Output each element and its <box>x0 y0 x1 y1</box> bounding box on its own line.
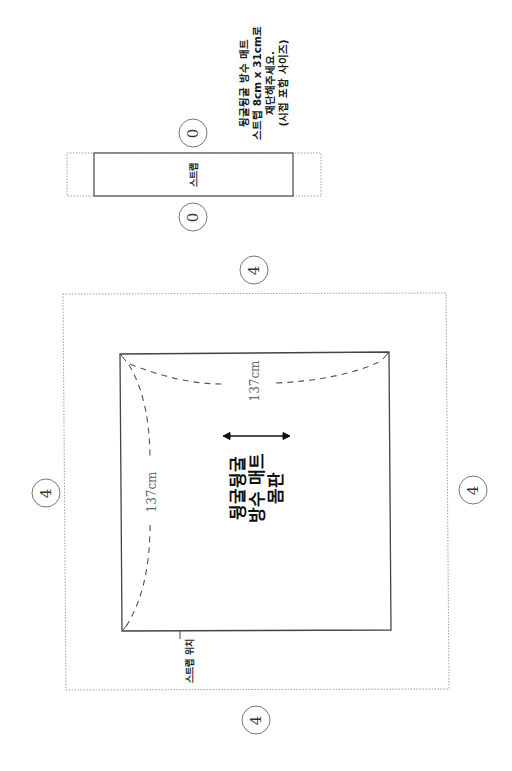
height-dimension-curve-lower <box>125 525 150 628</box>
note-line-2: 스트랩 8cm x 31cm로 <box>251 26 264 140</box>
width-dimension-curve <box>130 364 222 384</box>
body-label-line-1: 뒹굴뒹굴 <box>229 453 248 523</box>
seam-value: 4 <box>464 485 482 495</box>
strap-label: 스트랩 <box>187 163 200 187</box>
seam-value: 0 <box>184 128 202 138</box>
seam-value: 4 <box>245 265 263 275</box>
body-seam-allowance-left: 4 <box>32 479 61 508</box>
seam-value: 4 <box>37 488 55 498</box>
body-piece-label: 뒹굴뒹굴 방수 매트 몸판 <box>229 453 286 523</box>
pattern-canvas: 뒹굴뒹굴 방수 매트 스트랩 8cm x 31cm로 재단해주세요. (시접 포… <box>0 0 512 771</box>
body-label-line-2: 방수 매트 <box>248 453 267 523</box>
height-dimension-label: 137cm <box>145 471 159 512</box>
note-line-3: 재단해주세요. <box>264 26 277 140</box>
body-seam-allowance-top: 4 <box>240 256 269 285</box>
body-seam-allowance-bottom: 4 <box>242 706 271 735</box>
seam-value: 4 <box>247 715 265 725</box>
grainline-arrow <box>223 433 290 440</box>
seam-value: 0 <box>184 212 202 222</box>
body-label-line-3: 몸판 <box>267 453 286 523</box>
width-dimension-label: 137cm <box>248 360 262 401</box>
height-dimension-curve <box>129 365 150 460</box>
width-dimension-curve-right <box>276 362 379 383</box>
body-seam-allowance-right: 4 <box>459 476 488 505</box>
strap-position-label: 스트랩 위치 <box>183 639 196 682</box>
strap-seam-allowance-bottom: 0 <box>179 203 208 232</box>
cutting-note: 뒹굴뒹굴 방수 매트 스트랩 8cm x 31cm로 재단해주세요. (시접 포… <box>238 26 290 140</box>
note-line-1: 뒹굴뒹굴 방수 매트 <box>238 26 251 140</box>
strap-seam-allowance-top: 0 <box>179 119 208 148</box>
note-line-4: (시접 포함 사이즈) <box>277 26 290 140</box>
